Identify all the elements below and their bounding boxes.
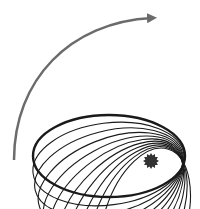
precession-arrow-icon (14, 18, 152, 160)
central-star-icon (143, 153, 159, 169)
orbit-ellipses (25, 113, 200, 209)
orbit-ellipse (25, 114, 197, 209)
orbit-ellipse (31, 117, 200, 209)
precession-diagram (0, 0, 200, 209)
